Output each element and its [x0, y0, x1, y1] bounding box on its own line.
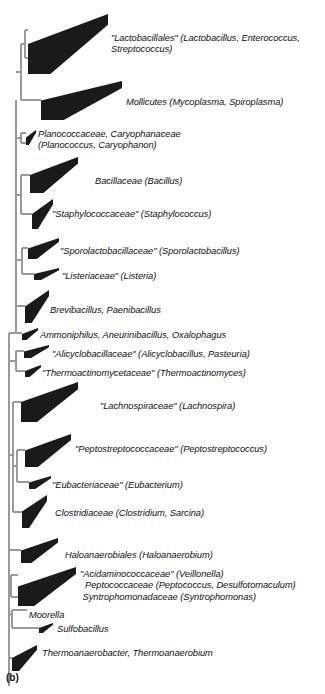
- clade-wedge-acidaminococcaceae-group: [18, 567, 76, 606]
- taxon-label-bacillaceae: Bacillaceae (Bacillus): [95, 176, 182, 187]
- taxon-label-haloanaerobiales: Haloanaerobiales (Haloanaerobium): [65, 550, 213, 561]
- taxon-label-lachnospiraceae: "Lachnospiraceae" (Lachnospira): [100, 401, 235, 412]
- taxon-label-thermoanaerobacter: Thermoanaerobacter, Thermoanaerobium: [42, 648, 213, 659]
- taxon-label-acidaminococcaceae-group: "Acidaminococcaceae" (Veillonella) Pepto…: [80, 569, 296, 603]
- taxon-label-peptostreptococcaceae: "Peptostreptococcaceae" (Peptostreptococ…: [75, 444, 267, 455]
- clade-wedge-eubacteriaceae: [29, 476, 51, 489]
- taxon-label-listeriaceae: "Listeriaceae" (Listeria): [62, 271, 156, 282]
- taxon-label-sporolactobacillaceae: "Sporolactobacillaceae" (Sporolactobacil…: [60, 246, 240, 257]
- clade-wedge-thermoactinomycetaceae: [25, 365, 41, 377]
- clade-wedge-peptostreptococcaceae: [25, 434, 71, 467]
- clade-wedge-bacillaceae: [30, 157, 78, 193]
- taxon-label-eubacteriaceae: "Eubacteriaceae" (Eubacterium): [52, 480, 183, 491]
- clade-wedge-lachnospiraceae: [21, 382, 78, 422]
- clade-wedge-listeriaceae: [34, 268, 59, 280]
- clade-wedge-lactobacillales: [28, 14, 108, 74]
- clade-wedge-ammoniphilus: [22, 328, 38, 340]
- clade-wedge-sporolactobacillaceae: [28, 238, 59, 259]
- taxon-label-thermoactinomycetaceae: "Thermoactinomycetaceae" (Thermoactinomy…: [42, 368, 246, 379]
- taxon-label-mollicutes: Mollicutes (Mycoplasma, Spiroplasma): [126, 97, 283, 108]
- taxon-label-clostridiaceae: Clostridiaceae (Clostridium, Sarcina): [55, 508, 204, 519]
- taxon-label-ammoniphilus: Ammoniphilus, Aneurinibacillus, Oxalopha…: [40, 330, 226, 341]
- clade-wedge-clostridiaceae: [22, 495, 47, 528]
- phylogenetic-tree-figure: "Lactobacillales" (Lactobacillus, Entero…: [0, 0, 325, 694]
- taxon-label-lactobacillales: "Lactobacillales" (Lactobacillus, Entero…: [111, 33, 300, 56]
- taxon-label-sulfobacillus: Sulfobacillus: [57, 624, 109, 635]
- clade-wedge-staphylococcaceae: [32, 199, 53, 229]
- taxon-label-alicyclobacillaceae: "Alicyclobacillaceae" (Alicyclobacillus,…: [52, 349, 250, 360]
- clade-wedge-thermoanaerobacter: [12, 645, 37, 671]
- clade-wedge-sulfobacillus: [39, 623, 53, 633]
- clade-wedge-brevibacillus: [25, 290, 49, 323]
- taxon-label-planococcaceae: Planococcaceae, Caryophanaceae (Planococ…: [38, 129, 181, 152]
- panel-label: (b): [6, 672, 19, 683]
- taxon-label-staphylococcaceae: "Staphylococcaceae" (Staphylococcus): [52, 209, 211, 220]
- taxon-label-brevibacillus: Brevibacillus, Paenibacillus: [50, 305, 161, 316]
- clade-wedge-planococcaceae: [26, 130, 36, 145]
- clade-wedge-mollicutes: [41, 81, 122, 120]
- taxon-label-moorella: Moorella: [29, 610, 64, 621]
- clade-wedge-alicyclobacillaceae: [24, 345, 49, 358]
- clade-wedge-haloanaerobiales: [21, 538, 58, 563]
